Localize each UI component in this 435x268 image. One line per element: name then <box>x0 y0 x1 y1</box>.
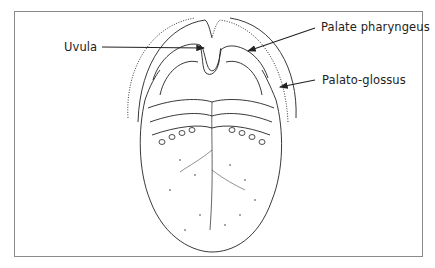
label-palato-glossus: Palato-glossus <box>322 73 406 87</box>
label-uvula: Uvula <box>64 40 97 54</box>
palato-glossus-arrow <box>280 80 315 87</box>
palate-pharyngeus-arrow <box>248 28 315 51</box>
uvula-arrow <box>102 47 204 48</box>
label-palate-pharyngeus: Palate pharyngeus <box>321 20 430 34</box>
